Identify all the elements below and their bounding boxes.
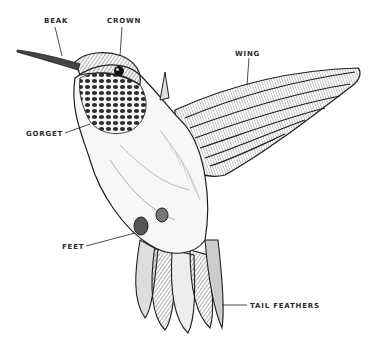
tail-feathers-shape [136,240,223,333]
label-feet: FEET [62,243,84,251]
label-crown: CROWN [107,17,141,25]
eye [114,66,124,76]
beak-shape [17,50,80,70]
label-beak: BEAK [44,17,68,25]
wing-shape [175,68,360,176]
hummingbird-diagram: BEAK CROWN WING GORGET FEET TAIL FEATHER… [0,0,380,351]
label-wing: WING [235,50,260,58]
hummingbird-illustration [0,0,380,351]
label-gorget: GORGET [26,130,63,138]
label-tail-feathers: TAIL FEATHERS [250,302,320,310]
